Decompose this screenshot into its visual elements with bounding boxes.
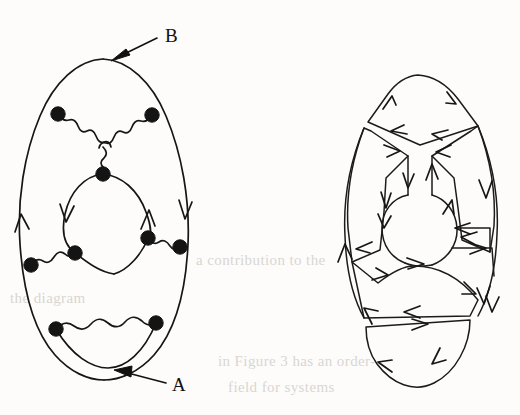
vertex-center xyxy=(96,167,110,181)
vertex-bottom-left xyxy=(49,322,63,336)
annotation-a: A xyxy=(114,366,186,395)
vertex-top-left xyxy=(51,107,65,121)
top-face-arrow-inward xyxy=(432,130,448,140)
vertex-mid-right-inner xyxy=(141,231,155,245)
right-diagram xyxy=(338,75,499,387)
wavy-edge-top-right xyxy=(99,115,152,148)
wavy-edge-bottom xyxy=(56,317,156,329)
arrowhead-outer-left-up xyxy=(15,214,29,232)
lower-face-arrow-upleft xyxy=(364,308,378,324)
vertex-mid-left-outer xyxy=(24,258,38,272)
right-upper-arrow-left xyxy=(436,145,451,157)
annotation-b-arrowhead xyxy=(111,49,130,61)
bottom-inner-arc xyxy=(56,323,156,368)
fermion-arrowheads xyxy=(15,200,192,232)
bottom-face-loop xyxy=(366,320,470,387)
vertex-mid-left-inner xyxy=(68,246,82,260)
top-face-loop xyxy=(368,75,478,145)
annotation-b-label: B xyxy=(165,25,178,46)
left-diagram xyxy=(15,59,192,380)
right-upper-arrow-down xyxy=(479,180,492,198)
figure-page: in Figure 3 has an order- field for syst… xyxy=(0,0,520,415)
arrowhead-outer-right-down xyxy=(179,200,192,219)
left-upper-arrow-right xyxy=(384,145,400,157)
left-upper-arrow-leftdown xyxy=(356,242,372,253)
lower-face-arrow-left xyxy=(404,306,420,318)
lower-face-arrow-downright xyxy=(462,282,476,294)
vertex-top-right xyxy=(145,108,159,122)
bottom-face-arrow-downleft xyxy=(432,348,446,364)
vertex-mid-right-outer xyxy=(173,240,187,254)
bottom-face-arrow-right xyxy=(412,319,428,330)
annotation-b: B xyxy=(111,25,178,61)
figure-illustration: B A xyxy=(0,0,520,415)
bottom-face-arrow-upleft xyxy=(378,360,392,372)
inner-loop-arrow-right xyxy=(407,258,424,269)
annotation-a-label: A xyxy=(172,374,186,395)
vertex-bottom-right xyxy=(149,316,163,330)
right-mid-arrow-down2 xyxy=(486,296,499,312)
